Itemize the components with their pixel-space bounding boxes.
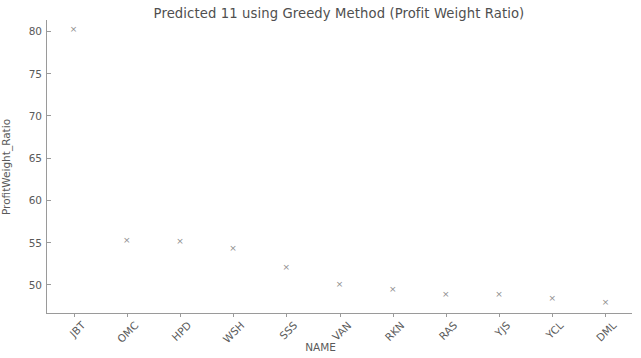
x-tick-label: SSS xyxy=(277,319,300,342)
x-tick-label: DML xyxy=(594,319,619,344)
x-tick xyxy=(74,313,75,317)
chart-title: Predicted 11 using Greedy Method (Profit… xyxy=(46,6,632,21)
data-point: × xyxy=(175,237,184,246)
y-tick-label: 75 xyxy=(29,68,42,80)
x-tick xyxy=(340,313,341,317)
x-tick-label: RKN xyxy=(382,319,406,343)
x-tick xyxy=(286,313,287,317)
x-tick-label: VAN xyxy=(329,319,353,343)
y-tick-label: 70 xyxy=(29,110,42,122)
data-point: × xyxy=(282,263,291,272)
x-axis-label: NAME xyxy=(305,341,336,353)
x-tick xyxy=(605,313,606,317)
data-point: × xyxy=(69,25,78,34)
x-tick xyxy=(446,313,447,317)
data-point: × xyxy=(548,294,557,303)
x-tick-label: RAS xyxy=(436,319,459,342)
data-point: × xyxy=(229,244,238,253)
y-axis-label: ProfitWeight_Ratio xyxy=(0,119,12,215)
plot-area: 50556065707580 JBTOMCHPDWSHSSSVANRKNRASY… xyxy=(46,20,632,314)
data-point: × xyxy=(122,236,131,245)
x-tick xyxy=(127,313,128,317)
data-point: × xyxy=(335,280,344,289)
x-tick xyxy=(393,313,394,317)
data-point: × xyxy=(601,298,610,307)
x-tick xyxy=(180,313,181,317)
y-tick-label: 60 xyxy=(29,194,42,206)
x-tick-label: YJS xyxy=(493,319,513,339)
x-tick-label: YCL xyxy=(544,319,566,341)
data-point: × xyxy=(388,285,397,294)
data-point: × xyxy=(441,290,450,299)
y-tick-label: 55 xyxy=(29,237,42,249)
x-tick xyxy=(233,313,234,317)
y-tick-label: 65 xyxy=(29,152,42,164)
x-tick-label: HPD xyxy=(169,319,193,343)
y-tick-label: 80 xyxy=(29,25,42,37)
scatter-points-layer: ××××××××××× xyxy=(47,20,632,313)
x-tick-label: JBT xyxy=(67,319,87,339)
x-tick xyxy=(499,313,500,317)
y-tick-label: 50 xyxy=(29,279,42,291)
data-point: × xyxy=(495,290,504,299)
x-tick-label: WSH xyxy=(220,319,246,345)
x-tick-label: OMC xyxy=(114,319,140,345)
x-tick xyxy=(552,313,553,317)
chart-figure: Predicted 11 using Greedy Method (Profit… xyxy=(0,0,641,358)
